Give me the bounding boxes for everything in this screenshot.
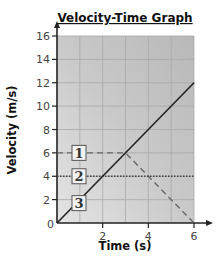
y-tick-label: 0: [47, 218, 54, 231]
x-axis-arrow-icon: [206, 220, 213, 226]
line-label-2: 2: [74, 169, 83, 184]
y-tick-label: 16: [36, 30, 50, 43]
x-axis-label: Time (s): [99, 239, 152, 253]
chart-title: Velocity-Time Graph: [57, 11, 192, 25]
line-label-3: 3: [74, 196, 83, 211]
line-label-1: 1: [74, 146, 83, 161]
y-axis-label: Velocity (m/s): [5, 85, 19, 174]
y-tick-label: 8: [43, 124, 50, 137]
y-tick-label: 10: [36, 100, 50, 113]
y-tick-label: 4: [43, 170, 50, 183]
x-tick-label: 6: [191, 230, 198, 243]
plot-area: 0246810121416246123: [36, 21, 213, 243]
y-tick-label: 6: [43, 147, 50, 160]
y-tick-label: 2: [43, 194, 50, 207]
velocity-time-chart: 0246810121416246123 Velocity-Time Graph …: [0, 0, 217, 262]
y-tick-label: 12: [36, 77, 50, 90]
y-tick-label: 14: [36, 53, 50, 66]
